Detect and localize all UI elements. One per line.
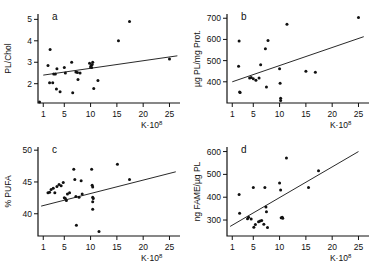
y-tick-label: 3 bbox=[27, 57, 32, 67]
x-tick-label: 20 bbox=[138, 242, 148, 252]
data-point bbox=[281, 217, 284, 220]
data-point bbox=[91, 200, 94, 203]
data-point bbox=[168, 58, 171, 61]
data-point bbox=[48, 81, 51, 84]
y-tick-label: 600 bbox=[207, 34, 221, 44]
axis-lines bbox=[38, 147, 180, 236]
data-point bbox=[238, 193, 241, 196]
data-point bbox=[307, 186, 310, 189]
data-point bbox=[252, 186, 255, 189]
x-tick-label: 10 bbox=[86, 242, 96, 252]
data-point bbox=[60, 184, 63, 187]
panel-letter: d bbox=[241, 144, 247, 155]
y-tick-label: 40 bbox=[23, 209, 33, 219]
x-tick-label: 15 bbox=[301, 242, 311, 252]
data-point bbox=[90, 168, 93, 171]
y-tick-label: 50 bbox=[23, 145, 33, 155]
panel-c-plot: 4045501510152025% PUFAK·108c bbox=[0, 133, 189, 266]
x-tick-label: 5 bbox=[62, 242, 67, 252]
data-point bbox=[128, 20, 131, 23]
y-tick-label: 500 bbox=[207, 169, 221, 179]
data-point bbox=[279, 188, 282, 191]
panel-letter: c bbox=[52, 144, 57, 155]
data-point bbox=[237, 65, 240, 68]
data-point bbox=[48, 191, 51, 194]
data-point bbox=[64, 71, 67, 74]
panel-b: 4005006007001510152025µg PL/mg Prot.K·10… bbox=[189, 0, 378, 133]
x-tick-label: 10 bbox=[275, 109, 285, 119]
data-point bbox=[265, 210, 268, 213]
data-point bbox=[279, 99, 282, 102]
y-tick-label: 700 bbox=[207, 13, 221, 23]
x-tick-label: 25 bbox=[165, 242, 175, 252]
data-point bbox=[71, 91, 74, 94]
data-point bbox=[262, 223, 265, 226]
data-point bbox=[117, 39, 120, 42]
data-point bbox=[254, 79, 257, 82]
data-point bbox=[278, 67, 281, 70]
data-point bbox=[49, 48, 52, 51]
y-axis-title: µg PL/mg Prot. bbox=[192, 30, 202, 87]
y-axis-title: ng FAME/µg PL bbox=[192, 161, 202, 221]
data-point bbox=[247, 216, 250, 219]
data-point bbox=[128, 178, 131, 181]
data-point bbox=[317, 169, 320, 172]
x-tick-label: 5 bbox=[62, 109, 67, 119]
data-point bbox=[72, 168, 75, 171]
y-tick-label: 5 bbox=[27, 14, 32, 24]
data-point bbox=[259, 63, 262, 66]
data-point bbox=[74, 195, 77, 198]
y-tick-label: 2 bbox=[27, 79, 32, 89]
x-tick-label: 10 bbox=[86, 109, 96, 119]
x-tick-label: 1 bbox=[230, 109, 235, 119]
data-point bbox=[260, 219, 263, 222]
x-tick-label: 20 bbox=[327, 109, 337, 119]
data-point bbox=[62, 181, 65, 184]
data-point bbox=[279, 82, 282, 85]
data-point bbox=[73, 178, 76, 181]
x-tick-label: 15 bbox=[112, 109, 122, 119]
data-point bbox=[75, 224, 78, 227]
data-point bbox=[68, 191, 71, 194]
data-point bbox=[65, 199, 68, 202]
data-point bbox=[76, 78, 79, 81]
data-point bbox=[91, 61, 94, 64]
panel-letter: a bbox=[52, 11, 58, 22]
y-tick-label: 400 bbox=[207, 192, 221, 202]
regression-line bbox=[230, 152, 358, 227]
x-tick-label: 20 bbox=[327, 242, 337, 252]
data-point bbox=[92, 197, 95, 200]
data-point bbox=[285, 156, 288, 159]
x-axis-title: K·108 bbox=[141, 120, 163, 130]
data-point bbox=[53, 191, 56, 194]
panel-a: 23451510152025PL/CholK·108a bbox=[0, 0, 189, 133]
data-point bbox=[63, 66, 66, 69]
regression-line bbox=[232, 37, 363, 82]
y-tick-label: 4 bbox=[27, 36, 32, 46]
data-point bbox=[267, 39, 270, 42]
data-point bbox=[98, 230, 101, 233]
data-point bbox=[91, 186, 94, 189]
data-point bbox=[116, 163, 119, 166]
data-point bbox=[264, 206, 267, 209]
data-point bbox=[266, 226, 269, 229]
y-tick-label: 45 bbox=[23, 177, 33, 187]
axis-lines bbox=[227, 14, 369, 103]
x-tick-label: 5 bbox=[251, 242, 256, 252]
y-axis-title: % PUFA bbox=[3, 175, 13, 207]
x-axis-title: K·108 bbox=[330, 253, 352, 263]
data-point bbox=[238, 212, 241, 215]
x-tick-label: 10 bbox=[275, 242, 285, 252]
x-tick-label: 25 bbox=[354, 242, 364, 252]
data-point bbox=[252, 77, 255, 80]
data-point bbox=[265, 86, 268, 89]
data-point bbox=[81, 193, 84, 196]
data-point bbox=[238, 40, 241, 43]
y-tick-label: 400 bbox=[207, 77, 221, 87]
panel-c: 4045501510152025% PUFAK·108c bbox=[0, 133, 189, 266]
data-point bbox=[278, 182, 281, 185]
axis-lines bbox=[227, 147, 369, 236]
panel-a-plot: 23451510152025PL/CholK·108a bbox=[0, 0, 189, 133]
panel-b-plot: 4005006007001510152025µg PL/mg Prot.K·10… bbox=[189, 0, 378, 133]
data-point bbox=[79, 71, 82, 74]
